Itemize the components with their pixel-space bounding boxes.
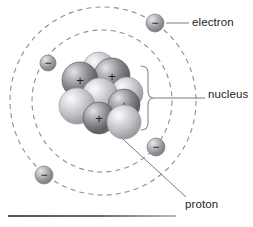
electron-charge-symbol: −: [151, 16, 158, 30]
electron-charge-symbol: −: [152, 140, 159, 154]
neutron-sphere: [107, 105, 141, 139]
nucleus-cluster: ++++: [59, 52, 143, 139]
proton-charge-symbol: +: [76, 73, 84, 88]
electron-upper-left: −: [40, 55, 56, 71]
bottom-rule: [8, 215, 176, 217]
proton-charge-symbol: +: [95, 111, 103, 126]
label-proton: proton: [185, 198, 218, 210]
atom-diagram: ++++ −−−−: [0, 0, 253, 227]
electron-top-right: −: [146, 14, 164, 32]
electron-charge-symbol: −: [40, 168, 47, 182]
electron-right: −: [147, 138, 165, 156]
label-electron: electron: [192, 16, 234, 28]
label-nucleus: nucleus: [208, 88, 248, 100]
neutron-bottom-right: [107, 105, 141, 139]
electron-charge-symbol: −: [44, 56, 51, 70]
electron-lower-left: −: [35, 166, 53, 184]
nucleus-brace-icon: [141, 66, 154, 130]
